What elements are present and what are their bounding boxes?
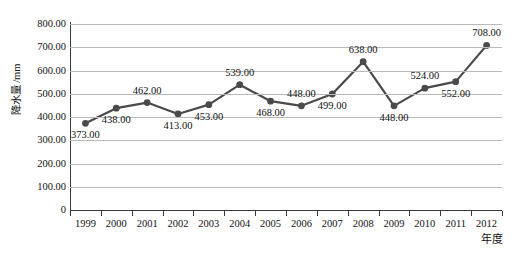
x-tick-mark [255, 211, 256, 216]
x-tick-label: 2011 [445, 219, 466, 230]
data-point-label: 468.00 [256, 108, 285, 119]
x-tick-label: 2006 [291, 219, 312, 230]
gridline [70, 47, 502, 48]
x-tick-mark [132, 211, 133, 216]
data-point-marker [205, 101, 212, 108]
x-tick-label: 2008 [353, 219, 374, 230]
y-tick-label: 100.00 [37, 182, 66, 193]
gridline [70, 164, 502, 165]
x-tick-mark [163, 211, 164, 216]
gridline [70, 187, 502, 188]
data-point-label: 438.00 [102, 115, 131, 126]
gridline [70, 140, 502, 141]
data-point-marker [82, 120, 89, 127]
data-point-marker [267, 98, 274, 105]
data-point-label: 539.00 [225, 68, 254, 79]
data-point-label: 373.00 [71, 130, 100, 141]
y-tick-label: 600.00 [37, 65, 66, 76]
data-point-label: 462.00 [133, 86, 162, 97]
x-tick-mark [317, 211, 318, 216]
x-tick-mark [502, 211, 503, 216]
y-tick-label: 300.00 [37, 135, 66, 146]
x-tick-mark [379, 211, 380, 216]
data-point-marker [360, 58, 367, 65]
precipitation-line-chart: 降水量 /mm 0100.00200.00300.00400.00500.006… [0, 0, 515, 257]
x-tick-mark [70, 211, 71, 216]
data-point-label: 499.00 [318, 101, 347, 112]
data-point-label: 448.00 [287, 89, 316, 100]
x-tick-mark [471, 211, 472, 216]
x-axis-title: 年度 [481, 234, 503, 245]
y-tick-label: 800.00 [37, 19, 66, 30]
data-point-label: 453.00 [194, 112, 223, 123]
x-tick-mark [193, 211, 194, 216]
x-tick-label: 2009 [384, 219, 405, 230]
data-point-marker [236, 81, 243, 88]
data-point-marker [144, 99, 151, 106]
x-tick-label: 2005 [260, 219, 281, 230]
data-point-label: 552.00 [441, 89, 470, 100]
x-tick-label: 2007 [322, 219, 343, 230]
data-point-marker [391, 102, 398, 109]
x-axis-tick-labels: 1999200020012002200320042005200620072008… [70, 219, 502, 235]
x-tick-label: 2012 [476, 219, 497, 230]
x-tick-label: 2004 [229, 219, 250, 230]
x-tick-mark [440, 211, 441, 216]
data-point-label: 413.00 [164, 121, 193, 132]
y-tick-label: 500.00 [37, 89, 66, 100]
data-point-label: 448.00 [380, 113, 409, 124]
data-point-marker [298, 102, 305, 109]
x-tick-mark [286, 211, 287, 216]
x-tick-mark [409, 211, 410, 216]
data-point-label: 708.00 [472, 28, 501, 39]
y-tick-label: 400.00 [37, 112, 66, 123]
x-tick-label: 2002 [168, 219, 189, 230]
x-tick-label: 1999 [75, 219, 96, 230]
gridline [70, 117, 502, 118]
data-point-marker [421, 85, 428, 92]
gridline [70, 24, 502, 25]
x-tick-mark [224, 211, 225, 216]
y-tick-label: 0 [61, 205, 66, 216]
data-point-marker [452, 78, 459, 85]
x-tick-mark [101, 211, 102, 216]
y-tick-label: 200.00 [37, 158, 66, 169]
x-tick-label: 2003 [198, 219, 219, 230]
data-point-label: 524.00 [410, 71, 439, 82]
data-point-marker [113, 105, 120, 112]
x-tick-label: 2000 [106, 219, 127, 230]
x-tick-label: 2010 [414, 219, 435, 230]
x-tick-label: 2001 [137, 219, 158, 230]
y-tick-label: 700.00 [37, 42, 66, 53]
plot-area: 373.00438.00462.00413.00453.00539.00468.… [70, 24, 502, 210]
y-axis-tick-labels: 0100.00200.00300.00400.00500.00600.00700… [0, 0, 70, 257]
x-tick-mark [348, 211, 349, 216]
data-point-label: 638.00 [349, 45, 378, 56]
